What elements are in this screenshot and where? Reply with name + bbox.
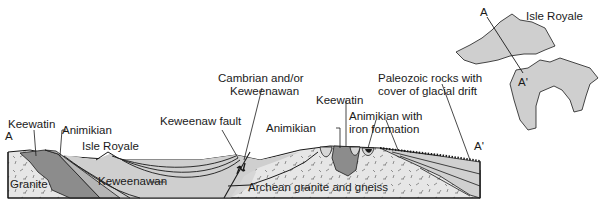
label-point-a-prime: A' [474,140,484,152]
label-keewatin-left: Keewatin [8,118,55,130]
label-isle-royale-section: Isle Royale [82,140,139,152]
label-paleozoic-line2: cover of glacial drift [378,85,478,97]
label-cambrian-line1: Cambrian and/or [218,72,304,84]
label-granite: Granite [10,178,48,190]
label-keweenaw-fault: Keweenaw fault [160,115,242,127]
map-label-isle-royale: Isle Royale [526,10,583,22]
map-label-a: A [480,6,488,18]
label-keweenawan: Keweenawan [98,175,167,187]
location-map: A A' Isle Royale [456,6,598,130]
lakes-michigan-huron-shape [510,58,598,130]
label-keewatin-right: Keewatin [316,94,363,106]
label-archean: Archean granite and gneiss [248,181,388,193]
label-point-a: A [5,130,13,142]
label-animikian-right: Animikian [266,122,316,134]
label-cambrian-line2: Keweenawan [230,85,299,97]
label-animikian-iron-line2: iron formation [349,123,419,135]
label-paleozoic-line1: Paleozoic rocks with [378,72,482,84]
label-animikian-left: Animikian [62,124,112,136]
map-label-a-prime: A' [518,76,528,88]
cross-section-figure: A Keewatin Animikian Isle Royale Granite… [0,0,610,206]
label-animikian-iron-line1: Animikian with [349,110,423,122]
cross-section [8,146,480,198]
